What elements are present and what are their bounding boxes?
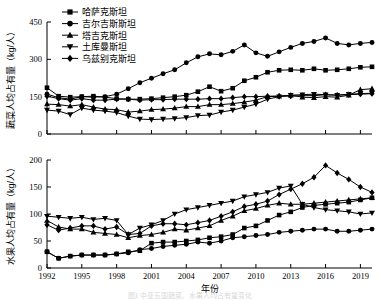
data-point-circle	[195, 240, 200, 245]
data-point-circle	[172, 243, 177, 248]
data-point-circle	[335, 41, 340, 46]
y-tick-label: 150	[29, 182, 42, 192]
data-point-diamond	[102, 226, 107, 232]
data-point-circle	[137, 247, 142, 252]
x-tick-label: 1992	[39, 271, 56, 281]
data-point-square	[219, 89, 224, 94]
data-point-circle	[126, 250, 131, 255]
data-point-square	[242, 226, 247, 231]
data-point-circle	[207, 51, 212, 56]
data-point-circle	[91, 253, 96, 258]
data-point-diamond	[184, 222, 189, 228]
data-point-square	[288, 210, 293, 215]
data-point-square	[323, 68, 328, 73]
data-point-diamond	[172, 221, 177, 227]
x-tick-label: 2019	[352, 271, 369, 281]
data-point-diamond	[114, 224, 119, 230]
data-point-circle	[68, 254, 73, 259]
data-point-square	[370, 65, 375, 70]
y-axis-title: 水果人均占有量（kg/人）	[5, 163, 16, 265]
data-point-diamond	[219, 213, 224, 219]
data-point-diamond	[79, 223, 84, 229]
data-point-circle	[184, 242, 189, 247]
data-point-circle	[265, 54, 270, 59]
x-tick-label: 2010	[247, 271, 264, 281]
data-point-diamond	[230, 209, 235, 215]
y-tick-label: 300	[29, 54, 42, 64]
data-point-square	[242, 78, 247, 83]
data-point-diamond	[91, 223, 96, 229]
data-point-circle	[253, 233, 258, 238]
data-point-square	[45, 85, 50, 90]
data-point-triangle-up	[276, 200, 282, 205]
data-point-square	[207, 84, 212, 89]
x-tick-label: 2001	[143, 271, 160, 281]
data-point-square	[230, 86, 235, 91]
data-point-diamond	[253, 201, 258, 207]
data-point-square	[346, 66, 351, 71]
panel-fruits: 0501001502001992199519982001200420072010…	[5, 155, 375, 294]
data-point-circle	[149, 76, 154, 81]
data-point-diamond	[207, 217, 212, 223]
data-point-circle	[149, 246, 154, 251]
data-point-square	[254, 224, 259, 229]
data-point-circle	[253, 50, 258, 55]
data-point-circle	[114, 251, 119, 256]
data-point-square	[358, 65, 363, 70]
data-point-circle	[288, 45, 293, 50]
data-point-diamond	[288, 186, 293, 192]
data-point-square	[277, 68, 282, 73]
data-point-circle	[323, 35, 328, 40]
data-point-circle	[242, 234, 247, 239]
legend: 哈萨克斯坦吉尔吉斯斯坦塔吉克斯坦土库曼斯坦乌兹别克斯坦	[62, 6, 136, 63]
data-point-circle	[242, 42, 247, 47]
data-point-square	[254, 75, 259, 80]
dual-line-chart: 0150300450蔬菜人均占有量（kg/人）05010015020019921…	[0, 0, 380, 300]
y-tick-label: 0	[38, 129, 42, 139]
data-point-circle	[103, 253, 108, 258]
legend-label: 土库曼斯坦	[82, 41, 127, 52]
data-point-circle	[79, 253, 84, 258]
data-point-square	[265, 218, 270, 223]
x-tick-label: 1995	[73, 271, 90, 281]
data-point-diamond	[265, 198, 270, 204]
data-point-diamond	[242, 203, 247, 209]
data-point-diamond	[277, 191, 282, 197]
data-point-circle	[277, 49, 282, 54]
data-point-circle	[358, 228, 363, 233]
legend-label: 哈萨克斯坦	[82, 6, 127, 17]
data-point-triangle-down	[67, 216, 73, 221]
x-tick-label: 2016	[317, 271, 334, 281]
data-point-circle	[358, 41, 363, 46]
legend-label: 乌兹别克斯坦	[82, 53, 136, 64]
data-point-circle	[288, 229, 293, 234]
data-point-circle	[195, 54, 200, 59]
data-point-diamond	[195, 219, 200, 225]
legend-label: 塔吉克斯坦	[82, 30, 127, 41]
data-point-circle	[114, 92, 119, 97]
data-point-circle	[265, 232, 270, 237]
data-point-circle	[207, 241, 212, 246]
data-point-square	[149, 241, 154, 246]
data-point-circle	[219, 52, 224, 57]
y-tick-label: 50	[34, 236, 43, 246]
x-tick-label: 2004	[178, 271, 196, 281]
data-point-square	[161, 240, 166, 245]
data-point-circle	[370, 227, 375, 232]
y-tick-label: 450	[29, 17, 42, 27]
data-point-square	[335, 67, 340, 72]
data-point-circle	[161, 71, 166, 76]
data-point-diamond	[207, 95, 212, 101]
data-point-diamond	[219, 95, 224, 101]
data-point-circle	[230, 235, 235, 240]
data-point-circle	[300, 228, 305, 233]
data-point-square	[277, 213, 282, 218]
data-point-diamond	[335, 170, 340, 176]
data-point-triangle-up	[44, 101, 50, 106]
data-point-diamond	[67, 55, 73, 62]
y-axis-title: 蔬菜人均占有量（kg/人）	[5, 27, 16, 129]
legend-label: 吉尔吉斯斯坦	[82, 18, 136, 29]
data-point-triangle-down	[357, 212, 363, 217]
data-point-circle	[137, 80, 142, 85]
data-point-circle	[300, 41, 305, 46]
